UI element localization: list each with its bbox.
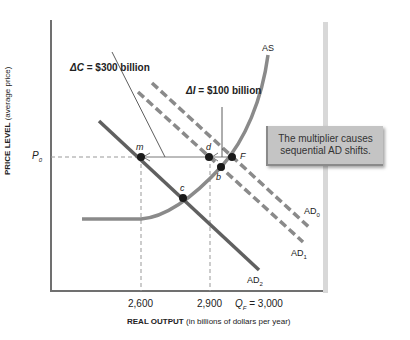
multiplier-diagram [0, 0, 410, 340]
delta-i-annotation: ΔI = $100 billion [186, 85, 261, 96]
y-axis-label: PRICE LEVEL (average price) [3, 67, 12, 175]
x-axis-label: REAL OUTPUT (in billions of dollars per … [127, 317, 290, 326]
point-f [228, 153, 236, 161]
y-tick-p0: P0 [32, 150, 42, 163]
ad1-label: AD1 [291, 248, 307, 260]
x-tick-qf: QF = 3,000 [235, 298, 283, 311]
qf-letter: Q [235, 298, 243, 309]
x-axis-label-bold: REAL OUTPUT [127, 317, 184, 326]
ad2-text: AD [247, 275, 260, 285]
x-tick-2600: 2,600 [128, 298, 153, 309]
delta-c-symbol: ΔC [70, 62, 84, 73]
point-f-label: F [240, 151, 246, 161]
ad2-sub: 2 [260, 281, 263, 287]
ad0-label: AD0 [304, 206, 320, 218]
point-m [137, 153, 145, 161]
delta-c-annotation: ΔC = $300 billion [70, 62, 150, 73]
point-b [217, 163, 225, 171]
y-axis-label-rest: (average price) [3, 67, 12, 123]
x-tick-2900: 2,900 [197, 298, 222, 309]
ad0-text: AD [304, 206, 317, 216]
multiplier-callout: The multiplier causes sequential AD shif… [266, 126, 383, 166]
delta-i-value: = $100 billion [196, 85, 262, 96]
ad1-text: AD [291, 248, 304, 258]
qf-value: = 3,000 [246, 298, 282, 309]
delta-i-symbol: ΔI [186, 85, 196, 96]
ad2-label: AD2 [247, 275, 263, 287]
delta-c-value: = $300 billion [84, 62, 150, 73]
ad0-sub: 0 [317, 212, 320, 218]
point-c-label: c [180, 183, 185, 193]
x-axis-label-rest: (in billions of dollars per year) [184, 317, 291, 326]
y-tick-sub: 0 [39, 157, 42, 163]
point-b-label: b [216, 172, 221, 182]
point-d-label: d [206, 142, 211, 152]
point-m-label: m [136, 142, 144, 152]
as-label: AS [262, 43, 274, 53]
ad1-sub: 1 [304, 254, 307, 260]
point-d [205, 153, 213, 161]
y-axis-label-bold: PRICE LEVEL [3, 123, 12, 175]
point-c [179, 194, 187, 202]
y-tick-letter: P [32, 150, 39, 161]
